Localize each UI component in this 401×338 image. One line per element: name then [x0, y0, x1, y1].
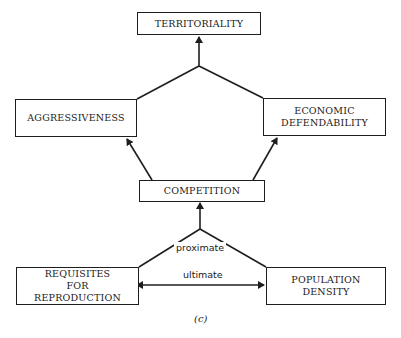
- node-label: TERRITORIALITY: [155, 18, 244, 30]
- node-label: AGGRESSIVENESS: [27, 112, 124, 124]
- edge-label-proximate: proximate: [174, 242, 226, 253]
- node-economic-defendability: ECONOMIC DEFENDABILITY: [263, 98, 386, 136]
- node-label: POPULATION DENSITY: [287, 274, 365, 298]
- node-label: COMPETITION: [164, 185, 241, 197]
- edge-to-territoriality: [137, 37, 263, 99]
- figure-caption: (c): [194, 313, 207, 324]
- node-competition: COMPETITION: [139, 180, 265, 202]
- node-label: ECONOMIC DEFENDABILITY: [278, 105, 371, 129]
- edge-competition-outputs: [127, 138, 277, 180]
- node-requisites-for-reproduction: REQUISITES FOR REPRODUCTION: [16, 267, 139, 305]
- node-territoriality: TERRITORIALITY: [137, 12, 261, 35]
- edge-label-ultimate: ultimate: [181, 269, 225, 280]
- node-aggressiveness: AGGRESSIVENESS: [15, 99, 137, 137]
- node-label: REQUISITES FOR REPRODUCTION: [34, 268, 121, 304]
- node-population-density: POPULATION DENSITY: [266, 267, 386, 305]
- edge-proximate: [139, 203, 266, 267]
